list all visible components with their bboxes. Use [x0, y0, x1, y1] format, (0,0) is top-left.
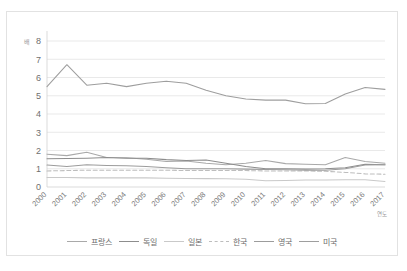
x-axis-tick-label: 2012: [269, 190, 287, 208]
series-line-한국: [47, 170, 385, 174]
y-axis-tick-label: 8: [36, 36, 41, 46]
x-axis-tick-label: 2015: [328, 190, 346, 208]
x-axis-title: 연도: [377, 210, 387, 217]
x-axis-tick-label: 2004: [110, 190, 128, 208]
x-axis-tick-label: 2001: [50, 190, 68, 208]
y-axis-tick-label: 3: [36, 128, 41, 138]
y-axis-tick-label: 4: [36, 109, 41, 119]
x-axis-tick-label: 2005: [130, 190, 148, 208]
y-axis-tick-label: 1: [36, 164, 41, 174]
x-axis-tick-label: 2007: [169, 190, 187, 208]
x-axis-tick-label: 2003: [90, 190, 108, 208]
x-axis-tick-label: 2002: [70, 190, 88, 208]
line-chart-svg: 배012345678200020012002200320042005200620…: [7, 12, 397, 255]
x-axis-tick-label: 2017: [368, 190, 386, 208]
chart-plot-area: 배012345678200020012002200320042005200620…: [7, 12, 397, 255]
series-line-독일: [47, 157, 385, 169]
legend-label: 일본: [188, 236, 202, 247]
series-line-미국: [47, 65, 385, 104]
legend-label: 프랑스: [91, 236, 112, 247]
x-axis-tick-label: 2014: [309, 190, 327, 208]
x-axis-tick-label: 2011: [249, 190, 267, 208]
legend-line-swatch: [164, 241, 184, 242]
y-axis-tick-label: 5: [36, 91, 41, 101]
y-axis-tick-label: 7: [36, 55, 41, 65]
legend-label: 영국: [278, 236, 292, 247]
legend-item-일본[interactable]: 일본: [164, 236, 202, 247]
page-bottom-text: [30, 259, 390, 269]
legend-line-swatch: [119, 241, 139, 242]
x-axis-tick-label: 2008: [189, 190, 207, 208]
legend-line-swatch: [254, 241, 274, 242]
legend-item-영국[interactable]: 영국: [254, 236, 292, 247]
y-axis-tick-label: 2: [36, 146, 41, 156]
legend-item-프랑스[interactable]: 프랑스: [67, 236, 112, 247]
series-line-영국: [47, 165, 385, 170]
series-line-프랑스: [47, 152, 385, 164]
chart-container: 배012345678200020012002200320042005200620…: [6, 11, 398, 256]
x-axis-tick-label: 2010: [229, 190, 247, 208]
legend-item-독일[interactable]: 독일: [119, 236, 157, 247]
legend-line-swatch: [209, 241, 229, 242]
x-axis-tick-label: 2006: [150, 190, 168, 208]
legend-line-swatch: [299, 241, 319, 242]
legend-item-한국[interactable]: 한국: [209, 236, 247, 247]
x-axis-tick-label: 2016: [348, 190, 366, 208]
series-line-일본: [47, 178, 385, 182]
x-axis-tick-label: 2000: [30, 190, 48, 208]
y-axis-unit-label: 배: [24, 38, 30, 46]
legend-line-swatch: [67, 241, 87, 242]
y-axis-tick-label: 6: [36, 73, 41, 83]
legend-label: 미국: [323, 236, 337, 247]
legend-label: 한국: [233, 236, 247, 247]
legend-label: 독일: [143, 236, 157, 247]
x-axis-tick-label: 2009: [209, 190, 227, 208]
x-axis-tick-label: 2013: [289, 190, 307, 208]
page-top-text: [0, 0, 407, 11]
legend-item-미국[interactable]: 미국: [299, 236, 337, 247]
chart-legend: 프랑스독일일본한국영국미국: [7, 231, 397, 251]
